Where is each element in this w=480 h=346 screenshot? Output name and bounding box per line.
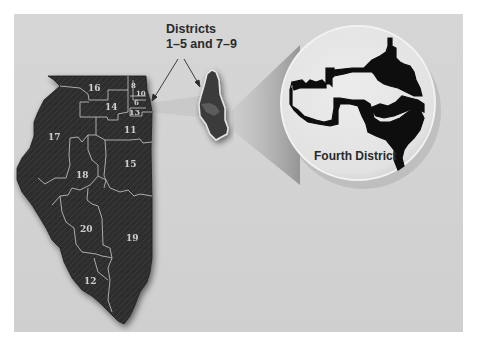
district-label-15: 15 [124, 159, 137, 169]
callout-line-2: 1–5 and 7–9 [166, 37, 237, 52]
chicago-inset [199, 70, 228, 140]
callout-line-1: Districts [166, 22, 237, 37]
fourth-district-inset: Fourth District [281, 26, 441, 189]
district-label-10: 10 [136, 89, 146, 98]
district-label-19: 19 [126, 233, 139, 243]
district-label-17: 17 [48, 132, 61, 142]
district-label-6: 6 [134, 98, 139, 107]
fourth-district-label: Fourth District [314, 149, 397, 163]
districts-callout: Districts 1–5 and 7–9 [166, 22, 237, 52]
district-label-12: 12 [84, 276, 97, 286]
district-label-16: 16 [88, 83, 101, 93]
district-label-13: 13 [129, 107, 141, 117]
callout-arrows [152, 59, 200, 101]
district-label-18: 18 [76, 170, 89, 180]
district-label-20: 20 [80, 224, 93, 234]
district-label-14: 14 [105, 102, 118, 112]
illinois-map: 8 10 6 13 16 14 11 17 18 15 20 19 12 [17, 76, 152, 324]
district-label-11: 11 [124, 125, 137, 135]
map-figure: 8 10 6 13 16 14 11 17 18 15 20 19 12 [0, 0, 480, 346]
